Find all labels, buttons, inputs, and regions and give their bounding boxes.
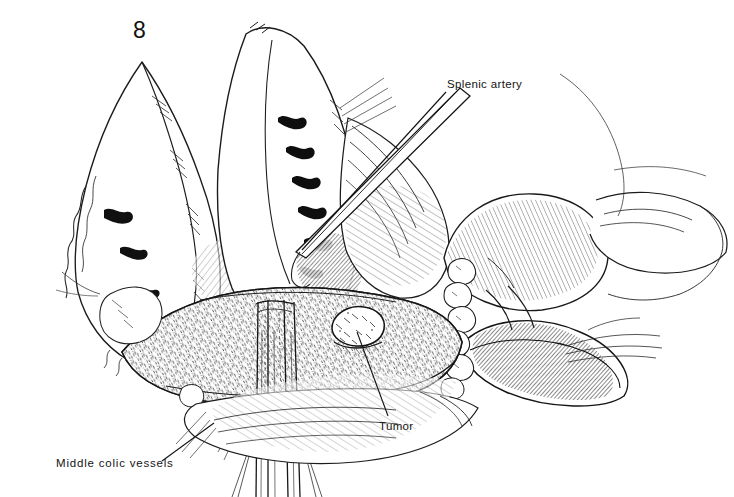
surgical-illustration (0, 0, 734, 497)
figure-number: 8 (133, 19, 146, 42)
figure-container: 8 Splenic artery Tumor Middle colic vess… (0, 0, 734, 497)
label-middle-colic-vessels: Middle colic vessels (56, 458, 174, 470)
label-tumor: Tumor (379, 421, 414, 433)
label-splenic-artery: Splenic artery (447, 79, 522, 91)
